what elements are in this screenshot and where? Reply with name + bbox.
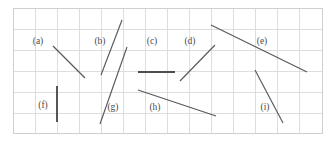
segment-label-a: (a) — [33, 36, 44, 47]
line-segment-b — [101, 20, 122, 75]
segment-label-i: (i) — [261, 102, 270, 113]
segment-label-e: (e) — [257, 36, 268, 47]
line-segment-a — [53, 46, 85, 78]
grid — [13, 8, 322, 133]
segment-label-c: (c) — [147, 36, 158, 47]
grid-border — [13, 8, 322, 133]
line-segment-i — [255, 70, 283, 123]
segment-label-g: (g) — [107, 102, 118, 113]
figure-canvas: (a)(b)(c)(d)(e)(f)(g)(h)(i) — [0, 0, 333, 142]
line-segment-e — [211, 25, 307, 72]
segment-label-f: (f) — [38, 100, 48, 111]
line-segment-d — [180, 45, 215, 81]
segment-labels-layer: (a)(b)(c)(d)(e)(f)(g)(h)(i) — [33, 36, 270, 113]
line-segment-figure: (a)(b)(c)(d)(e)(f)(g)(h)(i) — [0, 0, 333, 142]
segment-label-d: (d) — [184, 36, 195, 47]
segment-label-b: (b) — [94, 36, 105, 47]
segment-label-h: (h) — [149, 102, 160, 113]
